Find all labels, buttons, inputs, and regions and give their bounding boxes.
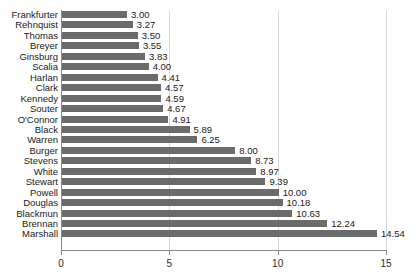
value-label: 4.00 [153, 62, 172, 72]
bar [62, 126, 190, 133]
value-label: 9.39 [269, 177, 288, 187]
bar-row: Burger8.00 [0, 146, 416, 156]
value-label: 3.55 [143, 41, 162, 51]
bar-row: Souter4.67 [0, 104, 416, 114]
x-axis-tick-label: 0 [58, 258, 64, 269]
x-axis-tick-mark [278, 250, 279, 255]
bar [62, 53, 145, 60]
bar-chart: 051015 Frankfurter3.00Rehnquist3.27Thoma… [0, 0, 416, 278]
bar [62, 21, 133, 28]
category-label: Clark [0, 83, 58, 93]
category-label: Marshall [0, 229, 58, 239]
bar [62, 168, 256, 175]
bar [62, 210, 292, 217]
bar [62, 95, 161, 102]
bar-row: Marshall14.54 [0, 229, 416, 239]
bar [62, 230, 377, 237]
bar-row: Rehnquist3.27 [0, 20, 416, 30]
x-axis-tick-mark [386, 250, 387, 255]
value-label: 10.18 [287, 198, 311, 208]
category-label: Souter [0, 104, 58, 114]
bar-row: Kennedy4.59 [0, 94, 416, 104]
value-label: 3.27 [137, 20, 156, 30]
bar-row: Douglas10.18 [0, 198, 416, 208]
bar [62, 74, 158, 81]
bar [62, 189, 279, 196]
category-label: Douglas [0, 198, 58, 208]
bar [62, 157, 251, 164]
bar [62, 84, 161, 91]
category-label: Breyer [0, 41, 58, 51]
category-label: O'Connor [0, 115, 58, 125]
bar-row: Frankfurter3.00 [0, 10, 416, 20]
x-axis-line [61, 250, 386, 251]
value-label: 4.57 [165, 83, 184, 93]
value-label: 14.54 [381, 229, 405, 239]
bar [62, 220, 327, 227]
bar-row: Ginsburg3.83 [0, 52, 416, 62]
bar [62, 199, 283, 206]
category-label: Rehnquist [0, 20, 58, 30]
value-label: 12.24 [331, 219, 355, 229]
bar-row: O'Connor4.91 [0, 115, 416, 125]
bar-row: Brennan12.24 [0, 219, 416, 229]
value-label: 8.73 [255, 156, 274, 166]
value-label: 4.67 [167, 104, 186, 114]
x-axis-tick-label: 10 [272, 258, 283, 269]
bar-row: Harlan4.41 [0, 73, 416, 83]
category-label: Warren [0, 135, 58, 145]
bar-row: Clark4.57 [0, 83, 416, 93]
bar-row: Thomas3.50 [0, 31, 416, 41]
bar [62, 147, 235, 154]
value-label: 10.63 [296, 209, 320, 219]
bar-row: Warren6.25 [0, 135, 416, 145]
bar [62, 42, 139, 49]
category-label: Scalia [0, 62, 58, 72]
x-axis-tick-label: 5 [167, 258, 173, 269]
bar [62, 105, 163, 112]
bar-row: Stevens8.73 [0, 156, 416, 166]
bar-row: Breyer3.55 [0, 41, 416, 51]
category-label: Stevens [0, 156, 58, 166]
value-label: 6.25 [201, 135, 220, 145]
bar [62, 116, 168, 123]
bar-row: Stewart9.39 [0, 177, 416, 187]
value-label: 4.91 [172, 115, 191, 125]
bar [62, 136, 197, 143]
bar [62, 32, 138, 39]
bar [62, 11, 127, 18]
plot-area: 051015 Frankfurter3.00Rehnquist3.27Thoma… [0, 0, 416, 278]
bar-row: White8.97 [0, 167, 416, 177]
category-label: Stewart [0, 177, 58, 187]
bar [62, 63, 149, 70]
bar-row: Powell10.00 [0, 188, 416, 198]
x-axis-tick-mark [169, 250, 170, 255]
x-axis-tick-mark [61, 250, 62, 255]
bar-row: Scalia4.00 [0, 62, 416, 72]
bar [62, 178, 265, 185]
x-axis-tick-label: 15 [380, 258, 391, 269]
